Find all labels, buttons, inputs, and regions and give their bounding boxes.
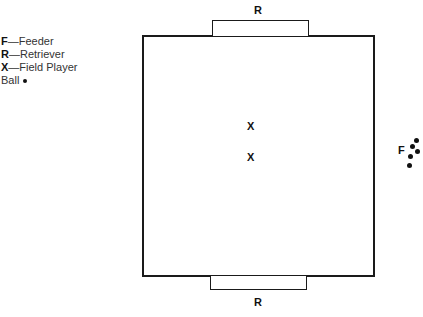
legend-label: Retriever (20, 48, 65, 60)
ball-icon (415, 149, 420, 154)
ball-icon (23, 79, 27, 83)
ball-icon (414, 138, 419, 143)
ball-icon (408, 154, 413, 159)
legend: F—Feeder R—Retriever X—Field Player Ball (1, 35, 77, 87)
ball-icon (407, 163, 412, 168)
legend-label: Field Player (19, 61, 77, 73)
legend-feeder: F—Feeder (1, 35, 77, 48)
legend-field-player: X—Field Player (1, 61, 77, 74)
top-goal-box (212, 20, 309, 36)
ball-icon (410, 144, 415, 149)
feeder-label: F (398, 145, 405, 156)
field-player-1: X (247, 121, 254, 132)
playing-field (142, 35, 375, 277)
legend-label: Ball (1, 74, 19, 86)
legend-symbol: R (1, 48, 9, 60)
legend-ball: Ball (1, 74, 77, 87)
legend-label: Feeder (19, 35, 54, 47)
legend-retriever: R—Retriever (1, 48, 77, 61)
legend-symbol: F (1, 35, 8, 47)
bottom-goal-box (210, 276, 307, 290)
field-player-2: X (247, 152, 254, 163)
bottom-retriever-label: R (254, 297, 262, 308)
top-retriever-label: R (254, 5, 262, 16)
